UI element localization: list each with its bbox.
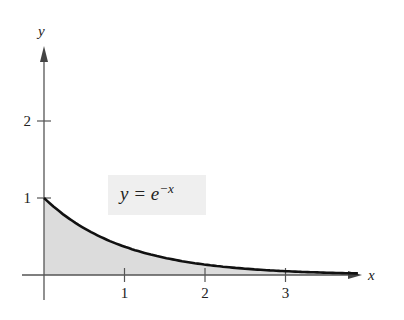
x-tick-label: 2	[201, 285, 209, 301]
y-tick-label: 2	[24, 113, 32, 129]
x-axis-label: x	[367, 267, 375, 283]
chart: 12312 x y y = e−x	[0, 0, 404, 320]
x-tick-label: 1	[121, 285, 129, 301]
plot-area: 12312 x y	[0, 0, 404, 320]
y-axis-arrow-icon	[40, 46, 48, 62]
y-tick-label: 1	[24, 190, 32, 206]
y-axis-label: y	[36, 23, 45, 39]
x-tick-label: 3	[282, 285, 290, 301]
equation-label: y = e−x	[120, 181, 174, 205]
